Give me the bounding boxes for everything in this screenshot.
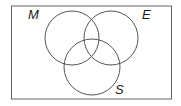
set-e-label: E <box>142 7 151 22</box>
set-s-label: S <box>115 82 124 97</box>
set-m-circle <box>45 11 99 65</box>
venn-diagram: M E S <box>0 0 181 106</box>
set-e-circle <box>84 11 138 65</box>
set-s-circle <box>64 39 120 95</box>
set-m-label: M <box>28 7 39 22</box>
